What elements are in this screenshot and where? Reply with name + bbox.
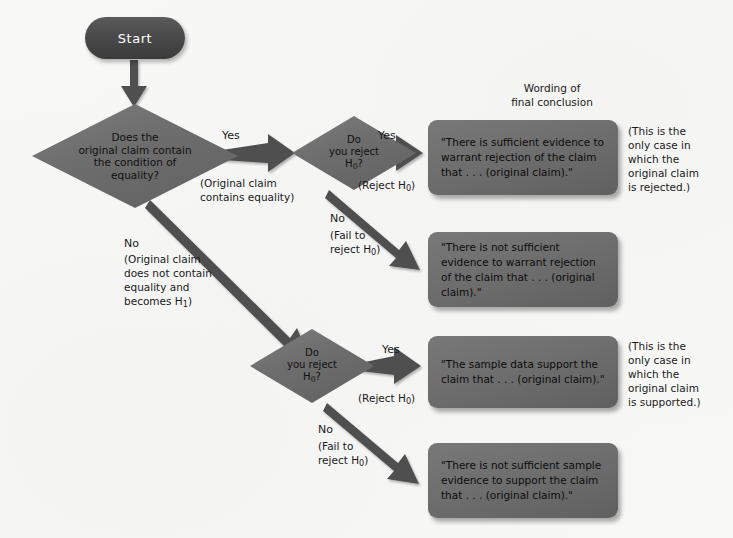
branch-bottom-no-label: No (318, 423, 333, 437)
decision-equality-line3: the condition of (94, 156, 177, 169)
branch-top-no-note: (Fail toreject H0) (330, 228, 380, 259)
annotation-only-case-rejected: (This is the only case in which the orig… (628, 124, 728, 194)
conclusion-box-sample-supports[interactable]: "The sample data support the claim that … (428, 336, 618, 408)
branch-bottom-yes-note: (Reject H0) (358, 391, 415, 408)
conclusion-text: "There is sufficient evidence to warrant… (441, 135, 605, 180)
conclusion-text: "The sample data support the claim that … (441, 357, 605, 387)
branch-yes-equality-note: (Original claim contains equality) (200, 176, 294, 204)
decision-equality-line4: equality? (111, 169, 159, 182)
branch-no-equality-note: (Original claim does not contain equalit… (124, 252, 212, 311)
branch-bottom-no-note: (Fail toreject H0) (318, 439, 368, 470)
decision-reject-top-line2: you reject (329, 146, 379, 158)
conclusion-box-sufficient-reject[interactable]: "There is sufficient evidence to warrant… (428, 120, 618, 195)
decision-reject-h0-bottom[interactable]: Do you reject H0? (250, 329, 374, 403)
conclusion-box-not-sufficient-reject[interactable]: "There is not sufficient evidence to war… (428, 232, 618, 307)
conclusion-box-not-sufficient-support[interactable]: "There is not sufficient sample evidence… (428, 443, 618, 518)
branch-top-yes-label: Yes (378, 129, 396, 143)
flowchart-canvas: Start Does the original claim contain th… (0, 0, 733, 538)
branch-yes-equality-label: Yes (222, 129, 240, 143)
start-node[interactable]: Start (85, 17, 185, 59)
branch-top-no-label: No (330, 212, 345, 226)
decision-equality-line1: Does the (111, 131, 158, 144)
decision-reject-top-line1: Do (347, 134, 361, 146)
arrow-start-to-equality (121, 60, 147, 107)
decision-reject-bottom-line1: Do (305, 347, 319, 359)
conclusion-text: "There is not sufficient sample evidence… (441, 458, 605, 503)
decision-reject-bottom-label: Do you reject H0? (250, 329, 374, 403)
decision-reject-bottom-line2: you reject (287, 359, 337, 371)
branch-bottom-yes-label: Yes (382, 343, 400, 357)
branch-top-yes-note: (Reject H0) (358, 178, 415, 195)
decision-equality-line2: original claim contain (78, 144, 191, 157)
wording-column-header: Wording of final conclusion (472, 82, 632, 109)
decision-reject-bottom-line3: H0? (303, 371, 321, 386)
conclusion-text: "There is not sufficient evidence to war… (441, 240, 605, 300)
decision-reject-top-line3: H0? (345, 158, 363, 173)
start-label: Start (118, 31, 152, 46)
branch-no-equality-label: No (124, 237, 139, 251)
annotation-only-case-supported: (This is the only case in which the orig… (628, 339, 728, 409)
